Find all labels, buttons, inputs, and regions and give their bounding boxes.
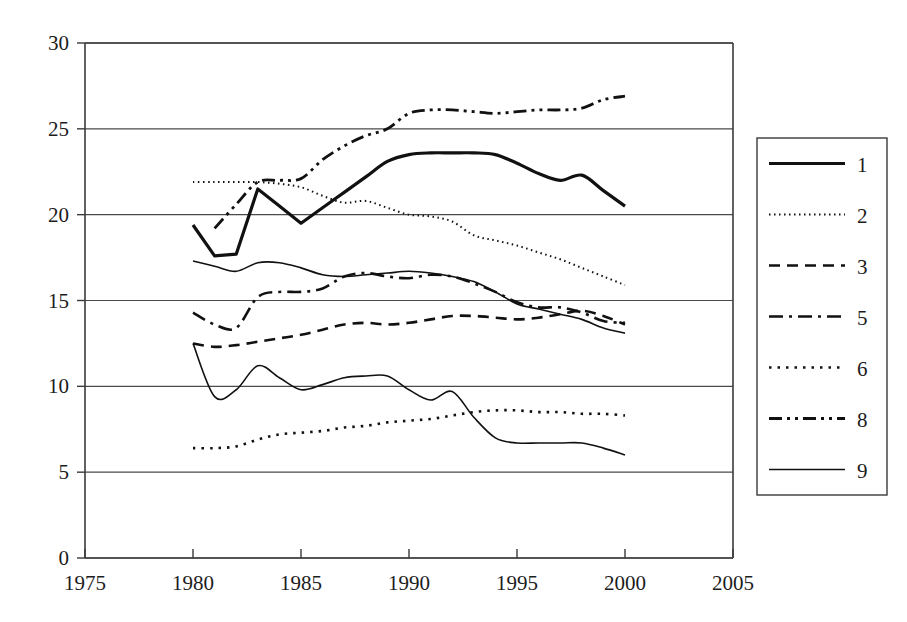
legend: 1235689 [757,138,887,495]
legend-label-1: 1 [857,153,868,177]
grid-lines [85,43,733,558]
y-axis-tick-labels: 051015202530 [48,31,69,570]
y-tick-label-20: 20 [48,203,69,227]
chart-canvas: 051015202530 197519801985199019952000200… [0,0,907,622]
x-tick-label-1980: 1980 [172,571,214,595]
x-tick-label-1975: 1975 [64,571,106,595]
y-tick-label-5: 5 [59,460,70,484]
series-line-1 [193,153,625,256]
x-tick-label-2000: 2000 [604,571,646,595]
legend-label-2: 2 [857,204,868,228]
y-tick-label-0: 0 [59,546,70,570]
data-series-group [193,96,625,455]
y-tick-label-30: 30 [48,31,69,55]
x-tick-label-1995: 1995 [496,571,538,595]
x-tick-label-1985: 1985 [280,571,322,595]
series-line-8 [215,96,625,228]
y-tick-label-25: 25 [48,117,69,141]
series-line-2 [193,182,625,285]
series-line-9b [193,343,625,455]
x-tick-label-2005: 2005 [712,571,754,595]
legend-label-9: 9 [857,459,868,483]
legend-label-5: 5 [857,306,868,330]
legend-label-3: 3 [857,255,868,279]
y-tick-label-10: 10 [48,374,69,398]
legend-label-8: 8 [857,408,868,432]
series-line-3 [193,311,625,347]
x-axis-tick-labels: 1975198019851990199520002005 [64,571,754,595]
x-tick-label-1990: 1990 [388,571,430,595]
line-chart-figure: 051015202530 197519801985199019952000200… [0,0,907,622]
series-line-5 [193,273,625,330]
y-tick-label-15: 15 [48,289,69,313]
legend-label-6: 6 [857,357,868,381]
